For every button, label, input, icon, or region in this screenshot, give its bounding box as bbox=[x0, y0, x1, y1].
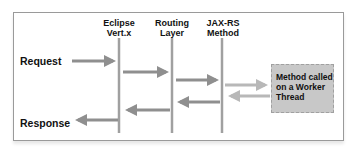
worker-thread-box: Method called on a Worker Thread bbox=[271, 64, 334, 113]
box-line: on a Worker bbox=[276, 82, 333, 92]
box-line: Thread bbox=[276, 92, 333, 102]
box-line: Method called bbox=[276, 72, 333, 82]
worker-thread-label: Method called on a Worker Thread bbox=[276, 72, 333, 102]
